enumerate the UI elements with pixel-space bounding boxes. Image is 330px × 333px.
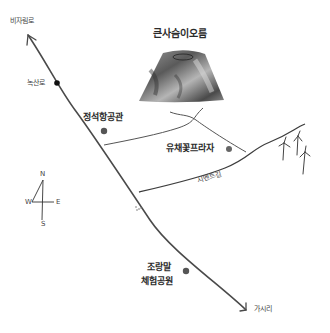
label-north-end: 비자림로 [10,18,34,25]
compass-icon [32,180,54,220]
cement-road [139,124,305,192]
compass-n: N [40,171,45,178]
compass-s: S [41,221,45,228]
label-nogsanro: 녹산로 [27,80,45,87]
label-pony-park-line1: 조랑말 [147,263,171,272]
pony-park-dot [183,268,189,274]
label-oreum: 큰사슴이오름 [153,29,207,39]
aviation-museum-dot [101,128,107,134]
compass-w: W [25,199,32,206]
nogsanro-dot [54,80,60,86]
oreum-illustration [139,50,224,102]
label-canola-plaza: 유채꽃프라자 [166,144,214,153]
compass-e: E [56,199,60,206]
wind-turbines-icon [279,131,310,174]
label-south-end: 가시리 [254,306,272,313]
label-pony-park-line2: 체험공원 [141,277,173,286]
canola-plaza-dot [226,146,232,152]
label-aviation-museum: 정석항공관 [83,113,123,122]
